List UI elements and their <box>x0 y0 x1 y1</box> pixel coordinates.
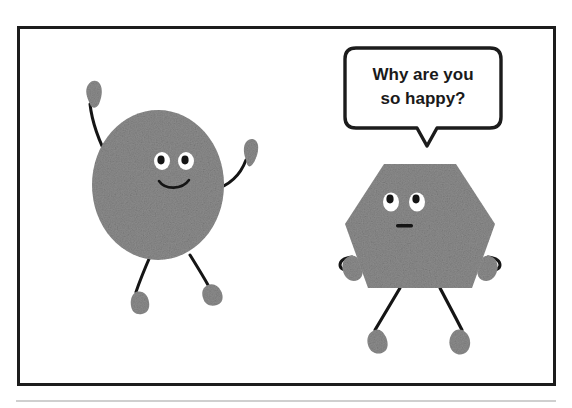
circle-left-pupil <box>157 156 164 165</box>
hexagon-right-pupil <box>412 195 419 204</box>
caption-rule <box>16 400 556 402</box>
circle-body <box>92 110 224 260</box>
comic-panel-illustration: Why are you so happy? <box>0 0 572 408</box>
hexagon-mouth-flat <box>396 224 413 227</box>
speech-bubble-line-1: Why are you <box>372 65 473 84</box>
speech-bubble-line-2: so happy? <box>380 89 465 108</box>
hexagon-left-pupil <box>386 195 393 204</box>
circle-right-pupil <box>181 156 188 165</box>
